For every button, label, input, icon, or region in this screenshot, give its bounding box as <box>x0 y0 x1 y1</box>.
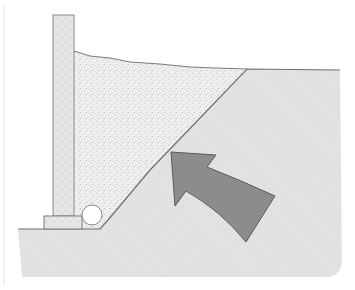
wall-footing <box>44 216 82 229</box>
retaining-wall <box>53 15 74 216</box>
retaining-wall-diagram <box>0 0 355 290</box>
drain-pipe <box>82 205 102 225</box>
